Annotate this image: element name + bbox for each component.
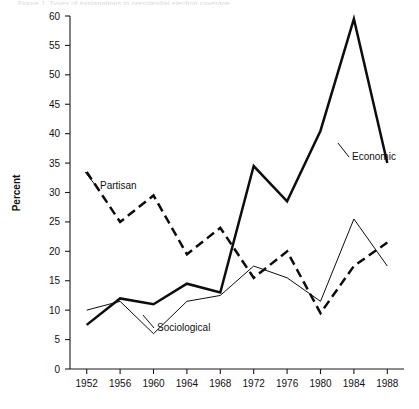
partisan-leader-line	[85, 172, 96, 186]
y-tick-label: 0	[54, 364, 60, 375]
x-tick-group: 1952195619601964196819721976198019841988	[76, 369, 399, 389]
series-line-sociological	[87, 219, 388, 334]
x-tick-label: 1972	[243, 378, 266, 389]
series-annotations: Partisan Economic Sociological	[85, 143, 396, 333]
x-tick-label: 1980	[309, 378, 332, 389]
y-tick-label: 15	[49, 275, 61, 286]
economic-leader-line	[338, 143, 349, 157]
y-tick-label: 35	[49, 158, 61, 169]
y-tick-label: 50	[49, 69, 61, 80]
x-tick-label: 1960	[142, 378, 165, 389]
figure-root: Figure 1. Types of explanations in presi…	[0, 0, 419, 409]
y-tick-group: 051015202530354045505560	[49, 11, 70, 375]
x-tick-label: 1952	[76, 378, 99, 389]
x-tick-label: 1968	[209, 378, 232, 389]
y-axis-title: Percent	[11, 174, 22, 211]
y-tick-label: 55	[49, 40, 61, 51]
x-tick-label: 1984	[343, 378, 366, 389]
x-tick-label: 1988	[376, 378, 399, 389]
line-chart: 051015202530354045505560 195219561960196…	[0, 0, 419, 409]
chart-axes	[70, 16, 404, 369]
sociological-leader-line	[143, 315, 154, 328]
y-tick-label: 40	[49, 128, 61, 139]
series-line-economic	[87, 19, 388, 325]
x-tick-label: 1976	[276, 378, 299, 389]
y-tick-label: 30	[49, 187, 61, 198]
series-label-sociological: Sociological	[157, 322, 210, 333]
series-label-economic: Economic	[352, 151, 396, 162]
y-tick-label: 25	[49, 216, 61, 227]
x-tick-label: 1956	[109, 378, 132, 389]
x-tick-label: 1964	[176, 378, 199, 389]
series-label-partisan: Partisan	[100, 180, 137, 191]
y-tick-label: 60	[49, 11, 61, 22]
series-group	[87, 19, 388, 334]
series-line-partisan	[87, 172, 388, 313]
y-tick-label: 45	[49, 99, 61, 110]
y-tick-label: 5	[54, 334, 60, 345]
y-tick-label: 20	[49, 246, 61, 257]
y-tick-label: 10	[49, 305, 61, 316]
